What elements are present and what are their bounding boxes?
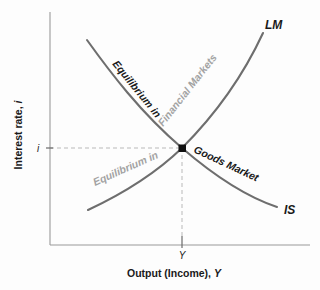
annotation-equilibrium-financial-line1-text: Equilibrium in bbox=[91, 148, 160, 187]
annotation-equilibrium-goods-line2-text: Goods Market bbox=[192, 143, 261, 184]
y-axis-title-symbol: i bbox=[12, 99, 24, 103]
y-axis-title-text: Interest rate, i bbox=[12, 99, 24, 169]
x-axis-tick-label: Y bbox=[179, 250, 187, 261]
plot-area: LM IS i Y Interest rate, i Output (Incom… bbox=[0, 0, 320, 290]
annotation-equilibrium-financial-line1: Equilibrium in bbox=[91, 148, 160, 187]
is-lm-diagram: LM IS i Y Interest rate, i Output (Incom… bbox=[0, 0, 320, 290]
lm-curve bbox=[88, 33, 263, 210]
x-axis-title-symbol: Y bbox=[214, 267, 222, 279]
annotation-equilibrium-goods-line1: Equilibrium in bbox=[110, 58, 163, 120]
annotation-equilibrium-goods-line2: Goods Market bbox=[192, 143, 261, 184]
equilibrium-point-marker bbox=[179, 145, 187, 153]
annotation-equilibrium-goods-line1-text: Equilibrium in bbox=[110, 58, 163, 120]
y-axis-tick-label: i bbox=[37, 143, 40, 154]
is-curve-label: IS bbox=[284, 203, 295, 217]
x-axis-title: Output (Income), Y bbox=[127, 267, 222, 279]
y-axis-title: Interest rate, i bbox=[12, 99, 24, 169]
lm-curve-label: LM bbox=[265, 18, 283, 32]
